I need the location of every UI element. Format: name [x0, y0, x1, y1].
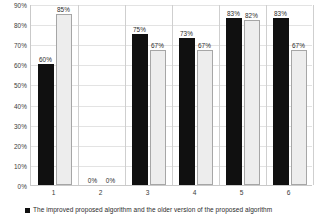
chart-legend: The improved proposed algorithm and the … — [25, 206, 272, 214]
x-axis-tick-label: 5 — [240, 189, 244, 197]
bar-group: 60%85% — [31, 5, 78, 185]
x-axis-tick-label: 3 — [146, 189, 150, 197]
bar-group: 73%67% — [172, 5, 219, 185]
bar — [179, 38, 195, 185]
y-axis-tick-label: 90% — [14, 2, 27, 9]
x-axis-tick-label: 1 — [52, 189, 56, 197]
y-axis-tick-label: 60% — [14, 62, 27, 69]
bar — [56, 14, 72, 185]
bar-group: 75%67% — [125, 5, 172, 185]
x-axis: 123456 — [30, 186, 312, 200]
bar-value-label: 75% — [133, 26, 146, 33]
bar-value-label: 85% — [57, 6, 70, 13]
bar-value-label: 60% — [39, 56, 52, 63]
y-axis-tick-label: 40% — [14, 102, 27, 109]
bar-group: 0%0% — [78, 5, 125, 185]
bar-group: 83%67% — [266, 5, 313, 185]
bar-value-label: 73% — [180, 30, 193, 37]
bar-group: 83%82% — [219, 5, 266, 185]
bar — [291, 50, 307, 185]
legend-label: The improved proposed algorithm and the … — [33, 206, 272, 214]
y-axis-tick-label: 50% — [14, 82, 27, 89]
y-axis: 0%10%20%30%40%50%60%70%80%90% — [0, 0, 30, 192]
y-axis-tick-label: 10% — [14, 162, 27, 169]
bar-value-label: 82% — [245, 12, 258, 19]
y-axis-tick-label: 0% — [18, 183, 27, 190]
bar — [38, 64, 54, 185]
bar-value-label: 0% — [106, 177, 115, 184]
bar-value-label: 83% — [227, 10, 240, 17]
x-axis-tick-label: 6 — [287, 189, 291, 197]
y-axis-tick-label: 80% — [14, 22, 27, 29]
x-axis-tick-label: 2 — [99, 189, 103, 197]
plot-area: 60%85%0%0%75%67%73%67%83%82%83%67% — [30, 5, 312, 186]
bar-value-label: 67% — [198, 42, 211, 49]
y-axis-tick-label: 30% — [14, 122, 27, 129]
bar-value-label: 67% — [151, 42, 164, 49]
bar — [226, 18, 242, 185]
y-axis-tick-label: 70% — [14, 42, 27, 49]
bar — [150, 50, 166, 185]
bar — [244, 20, 260, 185]
legend-swatch-icon — [25, 208, 30, 213]
bar — [197, 50, 213, 185]
bar-chart: 0%10%20%30%40%50%60%70%80%90% 60%85%0%0%… — [0, 0, 316, 220]
x-axis-tick-label: 4 — [193, 189, 197, 197]
bar-value-label: 67% — [292, 42, 305, 49]
bar-value-label: 0% — [88, 177, 97, 184]
bar — [132, 34, 148, 185]
gridline-category-separator — [313, 5, 314, 185]
bar-value-label: 83% — [274, 10, 287, 17]
bar — [273, 18, 289, 185]
y-axis-tick-label: 20% — [14, 142, 27, 149]
